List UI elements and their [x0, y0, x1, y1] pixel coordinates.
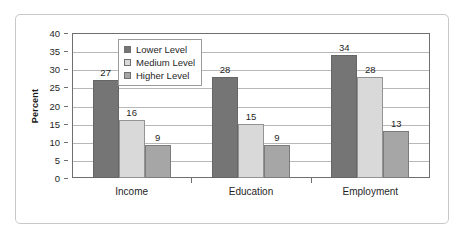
x-tick-label: Income	[72, 186, 192, 197]
x-axis: IncomeEducationEmployment	[72, 178, 430, 208]
bar	[383, 131, 409, 178]
bar	[264, 145, 290, 178]
y-tick-mark	[64, 51, 68, 52]
x-tick-mark	[311, 178, 312, 183]
y-tick-mark	[64, 160, 68, 161]
y-tick-mark	[64, 178, 68, 179]
x-tick-label: Employment	[310, 186, 430, 197]
bar	[119, 120, 145, 178]
bar-group: 342813	[311, 33, 430, 178]
bar-value-label: 34	[324, 42, 364, 53]
legend-item: Higher Level	[124, 69, 195, 82]
y-tick-label: 0	[20, 173, 60, 184]
y-axis: 4035302520151050	[22, 33, 68, 178]
bar-chart: Percent 4035302520151050 271692815934281…	[16, 15, 450, 225]
x-tick-mark	[191, 178, 192, 183]
bar-value-label: 16	[112, 107, 152, 118]
y-tick-mark	[64, 87, 68, 88]
bar	[93, 80, 119, 178]
y-tick-label: 25	[20, 82, 60, 93]
y-tick-mark	[64, 69, 68, 70]
chart-figure-frame: Percent 4035302520151050 271692815934281…	[15, 14, 449, 224]
bar-value-label: 15	[231, 111, 271, 122]
y-tick-label: 35	[20, 46, 60, 57]
y-tick-mark	[64, 33, 68, 34]
bar-value-label: 9	[257, 132, 297, 143]
bar	[212, 77, 238, 179]
y-tick-label: 20	[20, 100, 60, 111]
x-tick-label: Education	[191, 186, 311, 197]
legend-item-label: Lower Level	[136, 44, 187, 55]
y-tick-label: 5	[20, 154, 60, 165]
legend-item-label: Higher Level	[136, 70, 189, 81]
legend-item: Medium Level	[124, 56, 195, 69]
y-tick-label: 30	[20, 64, 60, 75]
legend-swatch-icon	[124, 59, 131, 66]
legend-item-label: Medium Level	[136, 57, 195, 68]
y-tick-label: 10	[20, 136, 60, 147]
y-tick-mark	[64, 106, 68, 107]
chart-legend: Lower LevelMedium LevelHigher Level	[118, 39, 202, 86]
bar-group: 28159	[191, 33, 310, 178]
bar-value-label: 13	[376, 118, 416, 129]
bar-value-label: 9	[138, 132, 178, 143]
legend-item: Lower Level	[124, 43, 195, 56]
y-tick-mark	[64, 124, 68, 125]
legend-swatch-icon	[124, 46, 131, 53]
legend-swatch-icon	[124, 72, 131, 79]
bar-value-label: 28	[350, 64, 390, 75]
y-tick-label: 40	[20, 28, 60, 39]
bar	[145, 145, 171, 178]
bar-value-label: 28	[205, 64, 245, 75]
y-tick-label: 15	[20, 118, 60, 129]
y-tick-mark	[64, 142, 68, 143]
